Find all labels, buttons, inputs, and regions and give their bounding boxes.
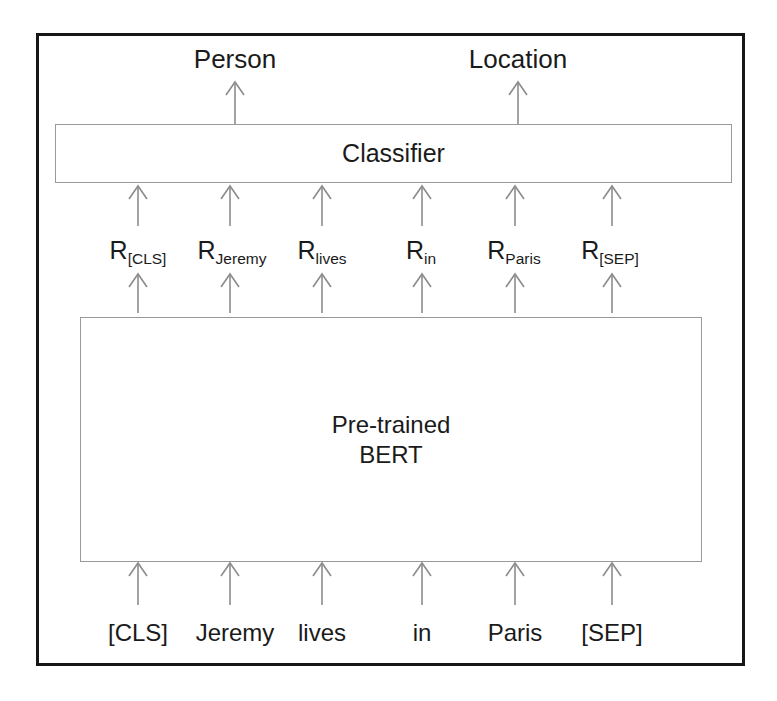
representation-base-lives: R xyxy=(297,236,315,264)
representation-base-cls: R xyxy=(110,236,128,264)
classifier-label: Classifier xyxy=(342,138,445,169)
representation-label-cls: R[CLS] xyxy=(110,236,167,265)
representation-subscript-paris: Paris xyxy=(505,250,540,267)
bert-ner-diagram: Person Location Classifier R[CLS] RJerem… xyxy=(0,0,777,701)
representation-subscript-jeremy: Jeremy xyxy=(216,250,267,267)
input-token-jeremy: Jeremy xyxy=(196,619,275,647)
input-token-in: in xyxy=(413,619,432,647)
classifier-box: Classifier xyxy=(55,124,732,183)
input-token-lives: lives xyxy=(298,619,346,647)
representation-label-sep: R[SEP] xyxy=(581,236,639,265)
representation-subscript-lives: lives xyxy=(316,250,347,267)
representation-base-in: R xyxy=(406,236,424,264)
representation-base-sep: R xyxy=(581,236,599,264)
representation-label-in: Rin xyxy=(406,236,436,265)
representation-label-jeremy: RJeremy xyxy=(198,236,267,265)
representation-subscript-sep: [SEP] xyxy=(599,250,639,267)
representation-subscript-cls: [CLS] xyxy=(128,250,167,267)
representation-base-jeremy: R xyxy=(198,236,216,264)
input-token-sep: [SEP] xyxy=(581,619,642,647)
representation-base-paris: R xyxy=(487,236,505,264)
representation-label-paris: RParis xyxy=(487,236,540,265)
input-token-paris: Paris xyxy=(488,619,543,647)
pretrained-bert-label: Pre-trained BERT xyxy=(332,410,451,469)
input-token-cls: [CLS] xyxy=(108,619,168,647)
output-label-location: Location xyxy=(469,44,567,75)
pretrained-bert-box: Pre-trained BERT xyxy=(80,317,702,562)
output-label-person: Person xyxy=(194,44,276,75)
representation-label-lives: Rlives xyxy=(297,236,346,265)
representation-subscript-in: in xyxy=(424,250,436,267)
